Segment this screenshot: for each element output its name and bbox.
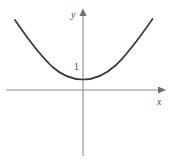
vertex-tick-label: 1 xyxy=(74,62,79,72)
x-axis-arrowhead xyxy=(158,86,166,93)
y-axis-label: y xyxy=(70,9,76,20)
parabola-figure: y x 1 xyxy=(0,0,175,165)
parabola-curve xyxy=(15,19,153,80)
graph-canvas: y x 1 xyxy=(0,0,175,165)
y-axis-arrowhead xyxy=(79,9,86,17)
x-axis-label: x xyxy=(156,96,162,107)
